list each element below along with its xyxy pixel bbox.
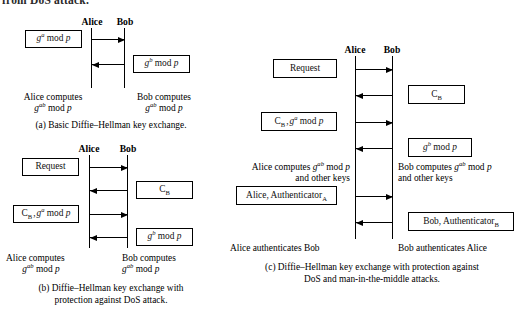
panel-b: Alice Bob Request CB CB,ga mod p gb mod … [0, 143, 250, 333]
panel-c-note-bob-authenticates-alice: Bob authenticates Alice [398, 243, 519, 254]
panel-b-caption: (b) Diffie–Hellman key exchange with pro… [0, 283, 222, 306]
panel-b-arrow-alice-to-bob-cookie-ga [90, 214, 127, 215]
panel-c-party-bob: Bob [368, 44, 416, 55]
panel-c-box-cookie-b-label: CB [431, 90, 442, 99]
panel-c-caption-line2: DoS and man-in-the-middle attacks. [228, 274, 516, 286]
panel-a-note-alice-computes: Alice computes gab mod p [10, 92, 96, 115]
panel-b-box-cookie-b-and-ga: CB,ga mod p [13, 205, 79, 223]
panel-c-box-request: Request [273, 59, 337, 78]
running-text-above-figure: from DoS attack. [2, 0, 89, 6]
panel-b-box-request-label: Request [35, 162, 65, 171]
panel-c-note-alice-computes-line1: Alice computes gab mod p [228, 162, 350, 173]
panel-c-box-bob-authenticator: Bob, AuthenticatorB [408, 212, 514, 231]
panel-b-note-alice-computes: Alice computes gab mod p [6, 253, 96, 276]
panel-a: Alice Bob ga mod p gb mod p Alice comput… [0, 14, 250, 136]
panel-b-caption-line2: protection against DoS attack. [0, 295, 222, 307]
panel-b-arrow-bob-to-alice-gb [90, 237, 127, 238]
panel-c-note-alice-authenticates-bob: Alice authenticates Bob [230, 243, 370, 254]
panel-b-box-g-b-mod-p: gb mod p [136, 228, 193, 246]
panel-b-arrow-alice-to-bob-request [90, 167, 127, 168]
panel-a-box-g-a-mod-p: ga mod p [25, 30, 82, 48]
panel-a-box-g-b-mod-p: gb mod p [133, 55, 190, 73]
panel-a-caption-line1: (a) Basic Diffie–Hellman key exchange. [0, 120, 222, 132]
panel-b-note-bob-computes-line2: gab mod p [122, 264, 192, 275]
panel-c-lifeline-bob [392, 56, 393, 239]
panel-c-note-bob-computes-line2: and other keys [398, 173, 519, 184]
panel-c-box-cookie-b-and-ga-label: CB,ga mod p [274, 117, 323, 126]
panel-b-box-cookie-b-label: CB [159, 185, 170, 194]
panel-a-box-g-b-mod-p-label: gb mod p [144, 59, 178, 68]
panel-b-note-alice-computes-line1: Alice computes [6, 253, 96, 264]
panel-b-note-bob-computes-line1: Bob computes [122, 253, 212, 264]
panel-a-box-g-a-mod-p-label: ga mod p [36, 34, 70, 43]
panel-c-box-alice-authenticator-label: Alice, AuthenticatorA [246, 191, 327, 200]
panel-c-box-bob-authenticator-label: Bob, AuthenticatorB [423, 217, 499, 226]
panel-b-caption-line1: (b) Diffie–Hellman key exchange with [0, 283, 222, 295]
panel-b-box-request: Request [22, 158, 79, 176]
panel-c-arrow-bob-to-alice-authenticator [356, 222, 392, 223]
panel-c-note-alice-computes: Alice computes gab mod p and other keys [228, 162, 350, 185]
panel-c-note-bob-computes-line1: Bob computes gab mod p [398, 162, 519, 173]
panel-b-party-bob: Bob [104, 143, 152, 154]
panel-c-box-cookie-b: CB [408, 85, 465, 104]
panel-a-note-alice-computes-line2: gab mod p [10, 103, 96, 114]
panel-a-arrow-bob-to-alice [92, 64, 124, 65]
panel-c-arrow-alice-to-bob-request [356, 69, 392, 70]
panel-c-caption: (c) Diffie–Hellman key exchange with pro… [228, 262, 516, 285]
panel-b-box-cookie-b-and-ga-label: CB,ga mod p [21, 209, 70, 218]
figure-canvas: from DoS attack. Alice Bob ga mod p gb m… [0, 0, 519, 333]
panel-a-caption: (a) Basic Diffie–Hellman key exchange. [0, 120, 222, 132]
panel-a-note-bob-computes-line2: gab mod p [121, 103, 207, 114]
panel-b-box-g-b-mod-p-label: gb mod p [147, 232, 181, 241]
panel-b-arrow-bob-to-alice-cookie [90, 190, 127, 191]
panel-c-box-g-b-mod-p-label: gb mod p [423, 143, 457, 152]
panel-c-arrow-bob-to-alice-gb [356, 148, 392, 149]
panel-c-note-alice-computes-line2: and other keys [228, 173, 350, 184]
panel-b-note-bob-computes: Bob computes gab mod p [122, 253, 212, 276]
panel-c-box-request-label: Request [290, 64, 320, 73]
panel-a-lifeline-alice [91, 28, 92, 88]
panel-c-arrow-bob-to-alice-cookie [356, 95, 392, 96]
panel-c-note-bob-computes: Bob computes gab mod p and other keys [398, 162, 519, 185]
panel-a-note-alice-computes-line1: Alice computes [10, 92, 96, 103]
panel-c-arrow-alice-to-bob-authenticator [356, 196, 392, 197]
panel-c: Alice Bob Request CB CB,ga mod p gb mod … [228, 44, 519, 333]
panel-a-note-bob-computes-line1: Bob computes [121, 92, 207, 103]
panel-a-party-bob: Bob [101, 16, 149, 27]
panel-b-box-cookie-b: CB [136, 181, 193, 199]
panel-a-note-bob-computes: Bob computes gab mod p [121, 92, 207, 115]
panel-b-note-alice-computes-line2: gab mod p [6, 264, 76, 275]
panel-a-arrow-alice-to-bob [92, 39, 124, 40]
panel-c-box-g-b-mod-p: gb mod p [408, 138, 472, 157]
panel-c-box-cookie-b-and-ga: CB,ga mod p [261, 112, 337, 131]
panel-c-box-alice-authenticator: Alice, AuthenticatorA [236, 186, 337, 205]
panel-c-caption-line1: (c) Diffie–Hellman key exchange with pro… [228, 262, 516, 274]
panel-c-arrow-alice-to-bob-cookie-ga [356, 122, 392, 123]
